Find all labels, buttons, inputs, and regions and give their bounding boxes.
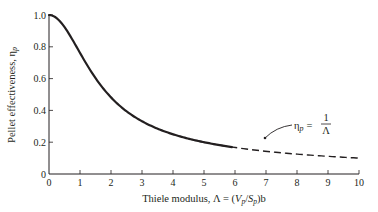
x-tick-label: 2	[109, 177, 114, 188]
x-tick-label: 1	[78, 177, 83, 188]
x-tick-label: 6	[233, 177, 238, 188]
annotation-eta: ηp=	[294, 120, 313, 133]
x-tick-label: 9	[326, 177, 331, 188]
effectiveness-chart: 01234567891000.20.40.60.81.0 Pellet effe…	[0, 0, 378, 212]
x-tick-label: 0	[47, 177, 52, 188]
plot-area	[49, 15, 359, 158]
y-tick-label: 1.0	[34, 10, 47, 21]
x-tick-label: 5	[202, 177, 207, 188]
asymptote-annotation: ηp= 1 Λ	[264, 112, 331, 139]
y-tick-label: 0.6	[34, 73, 47, 84]
y-tick-label: 0.2	[34, 137, 47, 148]
x-axis-label: Thiele modulus, Λ = (Vp/Sp)b	[142, 193, 266, 206]
y-tick-label: 0.4	[34, 105, 47, 116]
x-tick-label: 7	[264, 177, 269, 188]
x-tick-label: 3	[140, 177, 145, 188]
annotation-leader-line	[265, 125, 292, 138]
dashed-asymptote-curve	[198, 141, 359, 158]
x-tick-label: 10	[354, 177, 364, 188]
y-axis-label: Pellet effectiveness, ηp	[6, 47, 19, 143]
annotation-point	[264, 137, 267, 140]
annotation-frac-num: 1	[323, 112, 328, 123]
solid-effectiveness-curve	[49, 15, 232, 147]
y-tick-label: 0	[41, 169, 46, 180]
x-tick-label: 4	[171, 177, 176, 188]
y-tick-label: 0.8	[34, 41, 47, 52]
x-tick-label: 8	[295, 177, 300, 188]
annotation-frac-den: Λ	[322, 125, 330, 136]
axes: 01234567891000.20.40.60.81.0	[34, 10, 365, 189]
